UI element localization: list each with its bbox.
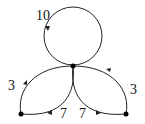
right-outer-label: 3 <box>130 82 137 97</box>
left-outer-arrow-icon <box>23 80 27 85</box>
node-left <box>19 112 24 117</box>
loop-label: 10 <box>36 8 50 23</box>
right-outer-arrow-icon <box>106 68 111 72</box>
loop-edge <box>44 7 102 65</box>
loop-arrow-icon <box>45 26 50 31</box>
right-inner-label: 7 <box>79 106 86 121</box>
left-inner-label: 7 <box>60 106 67 121</box>
graph-diagram: 10 3 7 7 3 <box>0 0 145 124</box>
node-right <box>124 112 129 117</box>
left-outer-label: 3 <box>8 78 15 93</box>
node-center <box>71 64 76 69</box>
